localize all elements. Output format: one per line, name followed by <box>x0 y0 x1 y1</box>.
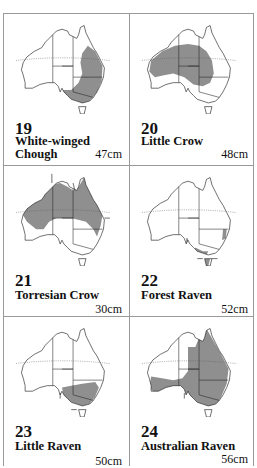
species-number: 23 <box>15 423 32 440</box>
range-map <box>10 20 114 114</box>
species-number: 22 <box>141 272 158 289</box>
range-map <box>10 172 114 266</box>
species-number: 21 <box>15 272 32 289</box>
species-size: 30cm <box>95 303 122 315</box>
range-map <box>10 323 114 417</box>
species-card-23: 23 Little Raven 50cm <box>4 317 128 467</box>
species-size: 56cm <box>221 453 248 465</box>
species-size: 48cm <box>221 148 248 160</box>
species-size: 47cm <box>95 148 122 160</box>
species-size: 50cm <box>95 455 122 467</box>
species-name: Torresian Crow <box>15 289 125 302</box>
species-size: 52cm <box>221 303 248 315</box>
range-map <box>136 323 240 417</box>
species-card-19: 19 White-winged Chough 47cm <box>4 14 128 164</box>
species-card-24: 24 Australian Raven 56cm <box>130 317 254 467</box>
species-name: Little Raven <box>15 440 125 453</box>
species-name: Forest Raven <box>141 289 251 302</box>
range-map <box>136 20 240 114</box>
species-grid: 19 White-winged Chough 47cm 20 Little Cr… <box>3 13 254 466</box>
range-map <box>136 172 240 266</box>
species-number: 24 <box>141 423 158 440</box>
species-card-20: 20 Little Crow 48cm <box>130 14 254 164</box>
species-card-22: 22 Forest Raven 52cm <box>130 166 254 316</box>
species-card-21: 21 Torresian Crow 30cm <box>4 166 128 316</box>
